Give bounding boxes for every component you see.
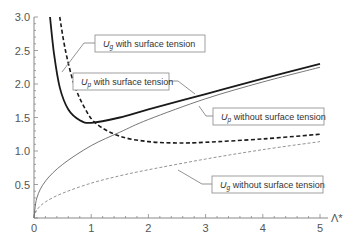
y-tick-label: 3.0 — [15, 11, 30, 23]
x-tick-label: 3 — [203, 222, 209, 234]
x-tick-label: 5 — [317, 222, 323, 234]
y-tick-label: 1.0 — [15, 145, 30, 157]
annotation-ug-without-st: Ug without surface tension — [178, 170, 325, 193]
up-with-st-curve — [50, 17, 320, 123]
annotation-up-with-st: Up with surface tension — [73, 73, 195, 94]
x-tick-label: 2 — [145, 222, 151, 234]
y-tick-label: 0.5 — [15, 179, 30, 191]
leader-line — [178, 170, 212, 184]
annotation-up-without-st: Up without surface tension — [199, 106, 326, 125]
y-tick-label: 2.5 — [15, 45, 30, 57]
x-axis-label: Λ* — [331, 212, 343, 224]
annotations: Ug with surface tensionUp with surface t… — [62, 35, 326, 193]
y-tick-label: 1.5 — [15, 112, 30, 124]
x-tick-label: 1 — [88, 222, 94, 234]
leader-line — [199, 106, 213, 116]
y-tick-label: 2.0 — [15, 78, 30, 90]
chart: 012345Λ*0.51.01.52.02.53.0 Ug with surfa… — [0, 0, 352, 241]
x-tick-label: 0 — [31, 222, 37, 234]
annotation-ug-with-st: Ug with surface tension — [62, 35, 205, 72]
x-tick-label: 4 — [260, 222, 266, 234]
